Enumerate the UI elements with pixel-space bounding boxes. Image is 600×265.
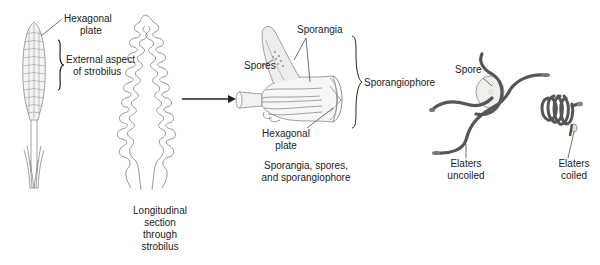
label-line: Hexagonal [64, 13, 112, 25]
label-elaters-coiled: Elaters coiled [552, 158, 596, 182]
label-line: Spore [455, 64, 482, 76]
caption-longitudinal-section: Longitudinal section through strobilus [130, 205, 190, 253]
label-line: plate [64, 25, 112, 37]
label-line: Hexagonal [256, 128, 316, 140]
label-line: Elaters [552, 158, 596, 170]
brace-sporangiophore [352, 36, 362, 128]
elaters-coiled-drawing [542, 96, 583, 136]
label-spores: Spores [244, 60, 276, 72]
caption-line: and sporangiophore [256, 172, 356, 184]
arrow-to-detail [182, 95, 236, 103]
label-line: Sporangiophore [364, 77, 435, 89]
caption-line: strobilus [130, 241, 190, 253]
label-line: coiled [552, 170, 596, 182]
label-hexagonal-plate-external: Hexagonal plate [64, 13, 112, 37]
label-external-aspect: External aspect of strobilus [66, 54, 135, 78]
label-line: External aspect [66, 54, 135, 66]
sporangiophore-drawing [236, 27, 342, 122]
longitudinal-section-drawing [118, 15, 176, 190]
label-line: of strobilus [66, 66, 135, 78]
label-spore: Spore [455, 64, 482, 76]
external-strobilus-drawing [23, 22, 46, 188]
elaters-uncoiled-drawing [429, 54, 550, 155]
caption-line: Sporangia, spores, [256, 160, 356, 172]
label-sporangia: Sporangia [297, 24, 343, 36]
label-hexagonal-plate-detail: Hexagonal plate [256, 128, 316, 152]
label-line: Elaters [440, 158, 492, 170]
label-elaters-uncoiled: Elaters uncoiled [440, 158, 492, 182]
caption-line: section [130, 217, 190, 229]
caption-sporangia-spores-sporangiophore: Sporangia, spores, and sporangiophore [256, 160, 356, 184]
label-line: Sporangia [297, 24, 343, 36]
label-line: Spores [244, 60, 276, 72]
caption-line: through [130, 229, 190, 241]
diagram-canvas: Hexagonal plate External aspect of strob… [0, 0, 600, 265]
caption-line: Longitudinal [130, 205, 190, 217]
label-line: uncoiled [440, 170, 492, 182]
leader-hexagonal-plate-1 [41, 19, 62, 36]
label-sporangiophore: Sporangiophore [364, 77, 435, 89]
label-line: plate [256, 140, 316, 152]
brace-external-aspect [58, 40, 64, 90]
